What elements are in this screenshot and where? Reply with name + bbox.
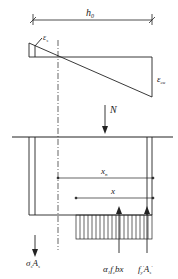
diagram-canvas: h0 εs εcu N xn x <box>0 0 178 279</box>
stress-block <box>76 215 152 239</box>
n-label: N <box>109 104 118 115</box>
h0-label: h0 <box>86 7 94 19</box>
xn-label: xn <box>100 166 108 177</box>
sigma-s-as-label: σsAs <box>26 258 40 269</box>
n-force-arrow <box>102 105 108 134</box>
section-left-edge <box>29 137 152 215</box>
eps-cu-label: εcu <box>157 74 166 85</box>
x-dimension <box>75 197 154 199</box>
concrete-force-arrow <box>116 206 122 253</box>
steel-compression-arrow <box>144 206 150 253</box>
concrete-force-label: α1fcbx <box>103 264 123 275</box>
steel-force-label: fy′As′ <box>138 264 153 275</box>
section-right-edge <box>147 137 152 215</box>
strain-diagram <box>29 38 152 97</box>
xn-dimension <box>57 177 154 179</box>
eps-s-label: εs <box>43 33 48 43</box>
steel-tension-arrow <box>32 235 38 257</box>
x-label: x <box>110 186 115 196</box>
